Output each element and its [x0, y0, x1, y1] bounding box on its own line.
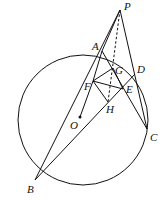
label-d: D [136, 63, 145, 75]
geometry-diagram: P A D G F E H O C B [0, 0, 162, 200]
label-e: E [125, 83, 133, 95]
label-h: H [105, 103, 115, 115]
label-a: A [91, 40, 99, 52]
segment-pb [35, 10, 120, 180]
label-g: G [115, 64, 123, 76]
segment-pa [102, 10, 120, 51]
label-o: O [70, 119, 78, 131]
label-b: B [27, 183, 34, 195]
point-o-dot [79, 116, 82, 119]
label-p: P [123, 0, 131, 12]
circle-o [18, 55, 148, 185]
label-f: F [83, 80, 91, 92]
label-c: C [150, 131, 158, 143]
